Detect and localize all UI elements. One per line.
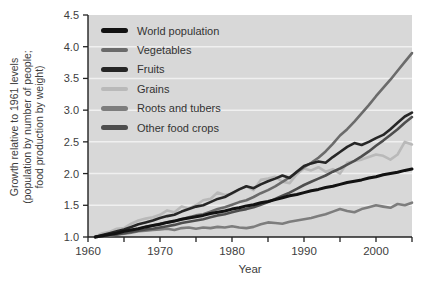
x-tick-label: 1970 [147,245,173,257]
legend-label: Grains [137,83,169,95]
legend-item: World population [101,21,221,40]
y-tick-label: 2.0 [64,168,79,180]
legend-swatch-icon [101,125,128,130]
legend-swatch-icon [101,67,128,72]
legend-item: Fruits [101,60,221,79]
y-tick-label: 3.0 [64,104,79,116]
legend-swatch-icon [101,87,128,92]
legend-swatch-icon [101,106,128,111]
food-production-growth-chart: 1.01.52.02.53.03.54.04.51960197019801990… [0,0,429,285]
y-tick-label: 4.0 [64,41,79,53]
x-tick-label: 1960 [75,245,101,257]
legend-item: Vegetables [101,40,221,59]
y-axis-title-line-1: Growth relative to 1961 levels [8,0,21,257]
x-axis-title: Year [88,263,412,275]
x-tick-label: 2000 [363,245,389,257]
legend-label: Vegetables [137,44,191,56]
x-tick-label: 1980 [219,245,245,257]
x-tick-label: 1990 [291,245,317,257]
legend-item: Other food crops [101,118,221,137]
y-axis-title-line-2: (population by number of people; [21,0,34,257]
legend-label: Roots and tubers [137,102,221,114]
y-tick-label: 4.5 [64,9,79,21]
legend-item: Roots and tubers [101,99,221,118]
y-axis-title: Growth relative to 1961 levels (populati… [8,0,46,257]
y-tick-label: 1.5 [64,199,79,211]
legend-item: Grains [101,79,221,98]
legend-swatch-icon [101,48,128,53]
legend-label: Other food crops [137,122,219,134]
legend-swatch-icon [101,28,128,33]
legend-label: World population [137,25,219,37]
y-tick-label: 1.0 [64,231,79,243]
y-tick-label: 2.5 [64,136,79,148]
y-axis-title-line-3: food production by weight) [33,0,46,257]
chart-legend: World populationVegetablesFruitsGrainsRo… [101,21,221,137]
y-tick-label: 3.5 [64,72,79,84]
legend-label: Fruits [137,63,165,75]
